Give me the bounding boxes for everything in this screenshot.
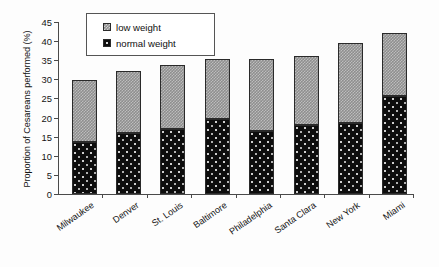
y-tick-mark [54,175,58,176]
x-category-label: Santa Clara [273,200,318,236]
x-tick-mark [102,194,103,198]
y-tick-mark [54,22,58,23]
y-axis-title: Proportion of Cesareans performed (%) [22,19,32,199]
y-tick-label: 25 [42,93,52,104]
y-tick-mark [54,137,58,138]
y-tick-mark [54,98,58,99]
low-weight-swatch-icon [103,23,111,31]
y-tick-mark [54,194,58,195]
bar-segment-normal-weight [160,129,185,194]
legend-item-normal-weight: normal weight [103,35,214,51]
x-tick-mark [147,194,148,198]
legend-label-low-weight: low weight [116,22,161,33]
x-tick-mark [369,194,370,198]
x-category-label: Denver [111,200,141,225]
stacked-bar [72,80,97,194]
y-tick-label: 20 [42,112,52,123]
stacked-bar [116,71,141,194]
x-tick-mark [280,194,281,198]
bar-segment-normal-weight [116,133,141,194]
x-category-label: Milwaukee [55,200,96,233]
bar-segment-low-weight [338,43,363,123]
bar-segment-low-weight [249,59,274,130]
y-tick-label: 15 [42,131,52,142]
figure-canvas: Proportion of Cesareans performed (%) 05… [0,0,439,267]
y-tick-label: 30 [42,74,52,85]
bar-segment-normal-weight [205,119,230,194]
legend-item-low-weight: low weight [103,19,214,35]
x-tick-mark [191,194,192,198]
y-tick-mark [54,60,58,61]
y-tick-label: 45 [42,17,52,28]
bar-segment-low-weight [205,59,230,119]
y-axis-line [58,22,59,195]
bar-segment-low-weight [116,71,141,133]
x-tick-mark [324,194,325,198]
x-tick-mark [236,194,237,198]
y-tick-label: 10 [42,150,52,161]
y-tick-mark [54,79,58,80]
x-category-label: St. Louis [150,200,185,228]
x-category-label: Baltimore [192,200,229,230]
stacked-bar [382,33,407,194]
x-category-label: New York [325,200,362,230]
bar-segment-normal-weight [249,131,274,194]
bar-segment-normal-weight [294,125,319,194]
stacked-bar [160,65,185,194]
bar-segment-low-weight [72,80,97,142]
bar-segment-low-weight [160,65,185,129]
y-tick-mark [54,41,58,42]
x-category-label: Philadelphia [227,200,273,237]
bar-segment-low-weight [382,33,407,96]
y-tick-label: 5 [47,169,52,180]
y-tick-mark [54,156,58,157]
y-tick-label: 35 [42,55,52,66]
x-category-label: Miami [381,200,407,222]
stacked-bar [205,59,230,194]
y-tick-label: 40 [42,36,52,47]
normal-weight-swatch-icon [103,39,111,47]
stacked-bar [249,59,274,194]
x-tick-mark [413,194,414,198]
bar-segment-normal-weight [338,123,363,194]
y-tick-mark [54,118,58,119]
bar-segment-normal-weight [382,96,407,194]
bar-segment-normal-weight [72,142,97,194]
bar-segment-low-weight [294,56,319,125]
y-tick-label: 0 [47,189,52,200]
stacked-bar [294,56,319,194]
legend-label-normal-weight: normal weight [116,38,176,49]
stacked-bar [338,43,363,194]
chart-legend: low weight normal weight [86,13,215,56]
